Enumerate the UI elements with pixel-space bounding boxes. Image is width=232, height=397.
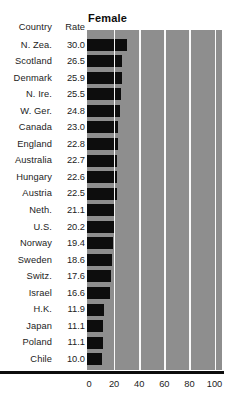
cell-country: Australia bbox=[15, 152, 52, 168]
bar-gridline-overlay bbox=[114, 88, 115, 100]
cell-rate: 17.6 bbox=[55, 268, 85, 284]
cell-country: H.K. bbox=[34, 301, 52, 317]
female-rate-bar-chart-figure: CountryRateN. Zea.30.0Scotland26.5Denmar… bbox=[0, 0, 232, 397]
bar bbox=[87, 270, 111, 282]
bar bbox=[87, 337, 103, 349]
bar bbox=[87, 72, 122, 84]
bar-gridline-overlay bbox=[114, 105, 115, 117]
bar bbox=[87, 254, 112, 266]
cell-rate: 11.1 bbox=[55, 334, 85, 350]
cell-country: Austria bbox=[22, 185, 52, 201]
bar bbox=[87, 304, 104, 316]
bar bbox=[87, 320, 103, 332]
table-row: Israel16.6 bbox=[0, 285, 86, 301]
cell-country: Israel bbox=[29, 285, 52, 301]
x-tick-label-20: 20 bbox=[109, 377, 119, 391]
cell-rate: 22.6 bbox=[55, 169, 85, 185]
bar bbox=[87, 88, 121, 100]
cell-rate: 11.1 bbox=[55, 318, 85, 334]
cell-rate: 22.8 bbox=[55, 136, 85, 152]
cell-country: Canada bbox=[19, 119, 52, 135]
table-row: Neth.21.1 bbox=[0, 202, 86, 218]
bar-gridline-overlay bbox=[114, 188, 115, 200]
bar-gridline-overlay bbox=[114, 121, 115, 133]
table-row: Austria22.5 bbox=[0, 185, 86, 201]
table-row: N. Ire.25.5 bbox=[0, 86, 86, 102]
table-row: Poland11.1 bbox=[0, 334, 86, 350]
gridline-60 bbox=[164, 30, 165, 370]
x-tick-label-100: 100 bbox=[207, 377, 223, 391]
column-header-country: Country bbox=[19, 19, 52, 35]
cell-rate: 16.6 bbox=[55, 285, 85, 301]
table-row: W. Ger.24.8 bbox=[0, 103, 86, 119]
bar bbox=[87, 171, 117, 183]
cell-rate: 25.9 bbox=[55, 70, 85, 86]
table-row: H.K.11.9 bbox=[0, 301, 86, 317]
bar-gridline-overlay bbox=[114, 171, 115, 183]
cell-rate: 26.5 bbox=[55, 53, 85, 69]
table-row: Chile10.0 bbox=[0, 351, 86, 367]
column-header-rate: Rate bbox=[55, 19, 85, 35]
plot-area bbox=[87, 30, 222, 370]
table-row: Denmark25.9 bbox=[0, 70, 86, 86]
cell-country: Japan bbox=[26, 318, 52, 334]
table-row: Switz.17.6 bbox=[0, 268, 86, 284]
cell-country: Chile bbox=[30, 351, 52, 367]
cell-rate: 20.2 bbox=[55, 219, 85, 235]
table-row: Canada23.0 bbox=[0, 119, 86, 135]
bar bbox=[87, 55, 122, 67]
cell-country: N. Zea. bbox=[21, 37, 52, 53]
cell-rate: 30.0 bbox=[55, 37, 85, 53]
bar bbox=[87, 237, 113, 249]
cell-rate: 23.0 bbox=[55, 119, 85, 135]
cell-country: Hungary bbox=[16, 169, 52, 185]
cell-country: W. Ger. bbox=[20, 103, 52, 119]
table-row: Norway19.4 bbox=[0, 235, 86, 251]
cell-rate: 10.0 bbox=[55, 351, 85, 367]
country-rate-table: CountryRateN. Zea.30.0Scotland26.5Denmar… bbox=[0, 0, 86, 370]
cell-country: England bbox=[17, 136, 52, 152]
table-row: U.S.20.2 bbox=[0, 219, 86, 235]
bar-gridline-overlay bbox=[114, 138, 115, 150]
cell-country: Switz. bbox=[27, 268, 52, 284]
axis-baseline bbox=[0, 371, 224, 374]
x-tick-label-80: 80 bbox=[184, 377, 194, 391]
bar-gridline-overlay bbox=[114, 72, 115, 84]
bar bbox=[87, 138, 118, 150]
cell-rate: 25.5 bbox=[55, 86, 85, 102]
table-row: Sweden18.6 bbox=[0, 252, 86, 268]
table-row: N. Zea.30.0 bbox=[0, 37, 86, 53]
bar bbox=[87, 188, 117, 200]
gridline-100 bbox=[215, 30, 216, 370]
x-tick-label-60: 60 bbox=[159, 377, 169, 391]
cell-rate: 18.6 bbox=[55, 252, 85, 268]
table-row: Hungary22.6 bbox=[0, 169, 86, 185]
bar-gridline-overlay bbox=[114, 221, 115, 233]
cell-country: Denmark bbox=[14, 70, 52, 86]
bar-gridline-overlay bbox=[114, 204, 115, 216]
table-header-row: CountryRate bbox=[0, 19, 86, 35]
table-row: England22.8 bbox=[0, 136, 86, 152]
bar-gridline-overlay bbox=[114, 55, 115, 67]
x-tick-label-0: 0 bbox=[86, 377, 91, 391]
bar-gridline-overlay bbox=[114, 155, 115, 167]
cell-country: Sweden bbox=[18, 252, 52, 268]
cell-country: Neth. bbox=[29, 202, 52, 218]
cell-country: Norway bbox=[20, 235, 52, 251]
cell-rate: 24.8 bbox=[55, 103, 85, 119]
cell-rate: 21.1 bbox=[55, 202, 85, 218]
cell-country: Poland bbox=[22, 334, 52, 350]
cell-rate: 22.5 bbox=[55, 185, 85, 201]
cell-country: N. Ire. bbox=[26, 86, 52, 102]
cell-rate: 11.9 bbox=[55, 301, 85, 317]
gridline-40 bbox=[139, 30, 140, 370]
table-row: Scotland26.5 bbox=[0, 53, 86, 69]
x-tick-label-40: 40 bbox=[134, 377, 144, 391]
cell-country: Scotland bbox=[15, 53, 52, 69]
chart-title: Female bbox=[88, 11, 127, 25]
gridline-80 bbox=[189, 30, 190, 370]
table-row: Japan11.1 bbox=[0, 318, 86, 334]
bar bbox=[87, 287, 110, 299]
cell-rate: 19.4 bbox=[55, 235, 85, 251]
bar-gridline-overlay bbox=[114, 39, 115, 51]
